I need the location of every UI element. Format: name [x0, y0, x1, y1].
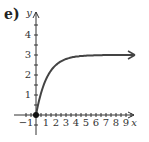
- x-tick-label: 6: [93, 117, 99, 128]
- x-tick-label: 9: [123, 117, 129, 128]
- y-tick-label: 3: [25, 49, 31, 60]
- x-axis-label: x: [131, 117, 137, 128]
- x-tick-label: 3: [63, 117, 69, 128]
- x-tick-label: 4: [73, 117, 79, 128]
- y-tick-label: 4: [25, 29, 31, 40]
- y-tick-label: 1: [25, 89, 31, 100]
- chart: −11234567891234xy: [0, 0, 149, 142]
- x-tick-label: 8: [113, 117, 119, 128]
- x-tick-label: 7: [103, 117, 109, 128]
- x-tick-label: 1: [43, 117, 49, 128]
- y-axis-label: y: [25, 7, 32, 18]
- x-tick-label: 2: [53, 117, 59, 128]
- y-tick-label: 2: [25, 69, 31, 80]
- closed-dot-icon: [33, 112, 39, 118]
- x-tick-label: 5: [83, 117, 89, 128]
- x-tick-label: −1: [19, 117, 34, 128]
- curve-line: [36, 55, 134, 115]
